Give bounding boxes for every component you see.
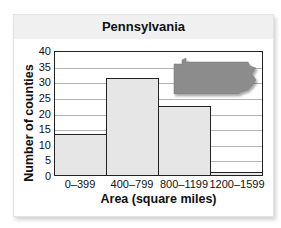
x-tick: 1200–1599 bbox=[207, 178, 267, 190]
bar-0-399 bbox=[54, 134, 107, 175]
chart-title: Pennsylvania bbox=[14, 15, 273, 39]
x-axis-label: Area (square miles) bbox=[54, 192, 263, 206]
x-tick: 400–799 bbox=[102, 178, 162, 190]
y-tick: 40 bbox=[29, 46, 51, 57]
x-tick: 800–1199 bbox=[154, 178, 214, 190]
x-tick: 0–399 bbox=[50, 178, 110, 190]
y-tick: 15 bbox=[29, 124, 51, 135]
y-tick: 20 bbox=[29, 109, 51, 120]
y-tick: 35 bbox=[29, 62, 51, 73]
bar-400-799 bbox=[106, 78, 159, 175]
y-tick: 25 bbox=[29, 93, 51, 104]
y-tick: 10 bbox=[29, 140, 51, 151]
bar-1200-1599 bbox=[210, 172, 263, 175]
pennsylvania-map-icon bbox=[172, 56, 260, 102]
y-tick: 30 bbox=[29, 77, 51, 88]
y-tick: 0 bbox=[29, 171, 51, 182]
y-tick: 5 bbox=[29, 155, 51, 166]
bar-800-1199 bbox=[158, 106, 211, 175]
chart-card: Pennsylvania Number of counties 40 35 30… bbox=[13, 14, 274, 217]
